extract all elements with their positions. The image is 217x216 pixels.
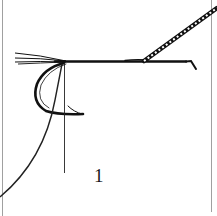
chenille-braid xyxy=(144,8,217,61)
fly-tying-diagram: 1 xyxy=(0,0,217,216)
step-number-label: 1 xyxy=(94,166,104,185)
hook-shank xyxy=(55,60,196,69)
hook-bend xyxy=(35,63,83,114)
tying-thread xyxy=(0,63,65,197)
diagram-canvas xyxy=(0,0,217,216)
